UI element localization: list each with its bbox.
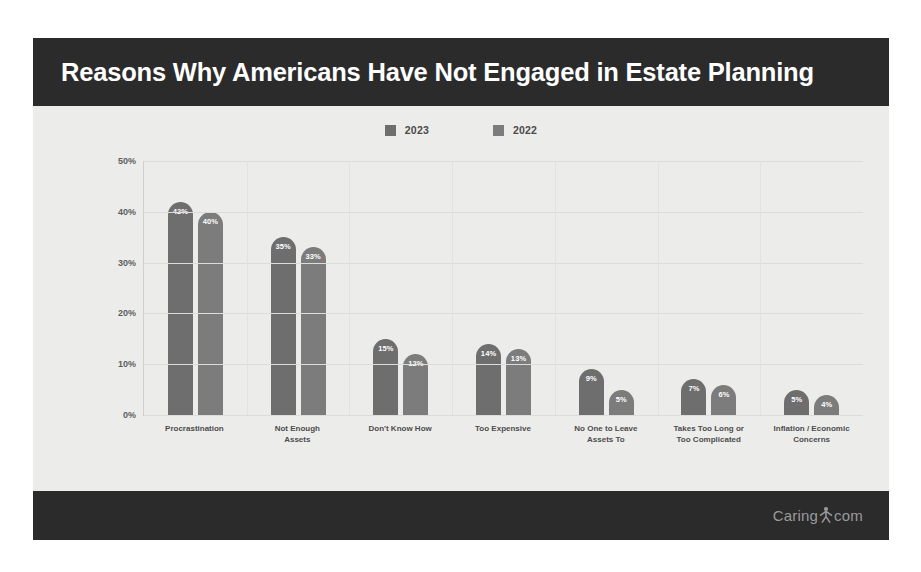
legend-swatch-icon [493, 125, 504, 136]
title-banner: Reasons Why Americans Have Not Engaged i… [33, 38, 889, 106]
chart-slide: Reasons Why Americans Have Not Engaged i… [33, 38, 889, 540]
y-axis-tick-label: 20% [118, 308, 136, 318]
category-label-line: Not Enough [249, 424, 346, 435]
legend-item-2023: 2023 [385, 124, 429, 136]
bar-value-label: 14% [481, 349, 496, 358]
category-label-line: Too Expensive [455, 424, 552, 435]
category-label-line: Inflation / Economic [763, 424, 860, 435]
category-label-line: Takes Too Long or [660, 424, 757, 435]
bar-value-label: 4% [821, 400, 832, 409]
category-label-line: Concerns [763, 435, 860, 446]
gridline [144, 161, 863, 162]
category-label-line: Too Complicated [660, 435, 757, 446]
category-divider [247, 161, 248, 415]
chart-legend: 20232022 [33, 124, 889, 136]
category-axis-labels: ProcrastinationNot EnoughAssetsDon't Kno… [143, 424, 863, 446]
plot-wrapper: 42%40%35%33%15%12%14%13%9%5%7%6%5%4% 50%… [105, 161, 863, 416]
category-label: No One to LeaveAssets To [554, 424, 657, 446]
legend-label: 2022 [513, 124, 537, 136]
category-label-line: Procrastination [146, 424, 243, 435]
bar-2023: 35% [271, 237, 296, 415]
bar-group: 42%40% [144, 161, 247, 415]
category-divider [452, 161, 453, 415]
bar-groups: 42%40%35%33%15%12%14%13%9%5%7%6%5%4% [144, 161, 863, 415]
bar-2023: 9% [579, 369, 604, 415]
y-axis-tick-label: 40% [118, 207, 136, 217]
category-label-line: No One to Leave [557, 424, 654, 435]
category-label: Not EnoughAssets [246, 424, 349, 446]
category-label: Too Expensive [452, 424, 555, 446]
bar-group: 15%12% [349, 161, 452, 415]
bar-value-label: 6% [718, 390, 729, 399]
gridline [144, 415, 863, 416]
bar-2023: 15% [373, 339, 398, 415]
bar-2022: 4% [814, 395, 839, 415]
y-axis-tick-label: 30% [118, 258, 136, 268]
bar-2023: 14% [476, 344, 501, 415]
page-title: Reasons Why Americans Have Not Engaged i… [61, 58, 814, 87]
bar-2023: 5% [784, 390, 809, 415]
category-label-line: Assets [249, 435, 346, 446]
person-icon [819, 506, 833, 526]
gridline [144, 263, 863, 264]
bar-value-label: 13% [511, 354, 526, 363]
bar-group: 9%5% [555, 161, 658, 415]
bar-value-label: 5% [791, 395, 802, 404]
bar-2023: 7% [681, 379, 706, 415]
category-label-line: Don't Know How [352, 424, 449, 435]
bar-2022: 5% [609, 390, 634, 415]
category-divider [658, 161, 659, 415]
y-axis-tick-label: 50% [118, 156, 136, 166]
category-label: Procrastination [143, 424, 246, 446]
category-divider [555, 161, 556, 415]
category-divider [349, 161, 350, 415]
bar-value-label: 35% [275, 242, 290, 251]
y-axis-tick-label: 0% [123, 410, 136, 420]
brand-logo: Caring com [773, 506, 863, 526]
bar-value-label: 33% [305, 252, 320, 261]
footer-banner: Caring com [33, 491, 889, 540]
bar-2022: 13% [506, 349, 531, 415]
plot-area: 42%40%35%33%15%12%14%13%9%5%7%6%5%4% 50%… [143, 161, 863, 416]
category-label: Don't Know How [349, 424, 452, 446]
category-label-line: Assets To [557, 435, 654, 446]
legend-label: 2023 [405, 124, 429, 136]
bar-group: 14%13% [452, 161, 555, 415]
bar-value-label: 9% [586, 374, 597, 383]
category-label: Takes Too Long orToo Complicated [657, 424, 760, 446]
bar-2022: 33% [301, 247, 326, 415]
bar-group: 5%4% [760, 161, 863, 415]
gridline [144, 212, 863, 213]
legend-swatch-icon [385, 125, 396, 136]
chart-body: 20232022 42%40%35%33%15%12%14%13%9%5%7%6… [33, 106, 889, 491]
gridline [144, 364, 863, 365]
bar-2022: 12% [403, 354, 428, 415]
bar-2023: 42% [168, 202, 193, 415]
bar-value-label: 7% [688, 384, 699, 393]
bar-value-label: 15% [378, 344, 393, 353]
bar-group: 7%6% [658, 161, 761, 415]
y-axis-tick-label: 10% [118, 359, 136, 369]
gridline [144, 313, 863, 314]
category-divider [760, 161, 761, 415]
brand-prefix: Caring [773, 507, 818, 524]
legend-item-2022: 2022 [493, 124, 537, 136]
bar-2022: 6% [711, 385, 736, 415]
bar-value-label: 40% [203, 217, 218, 226]
category-label: Inflation / EconomicConcerns [760, 424, 863, 446]
bar-group: 35%33% [247, 161, 350, 415]
brand-suffix: com [834, 507, 863, 524]
bar-value-label: 5% [616, 395, 627, 404]
